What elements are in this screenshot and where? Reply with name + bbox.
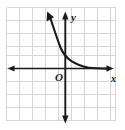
y-axis-label: y xyxy=(69,11,76,23)
coordinate-plane: y x O xyxy=(0,0,125,130)
origin-label: O xyxy=(55,71,63,83)
graph-figure: y x O xyxy=(0,0,125,130)
x-axis-label: x xyxy=(110,73,116,84)
